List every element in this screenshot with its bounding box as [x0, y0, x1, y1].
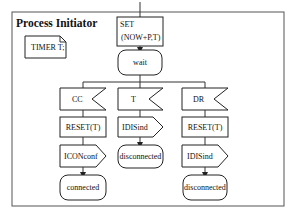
- output-idisind-t: IDISind: [118, 117, 163, 137]
- task-set-timer: SET (NOW+P,T): [117, 17, 163, 46]
- svg-text:disconnected: disconnected: [120, 152, 162, 161]
- svg-text:ICONconf: ICONconf: [64, 152, 98, 161]
- svg-text:CC: CC: [72, 95, 83, 104]
- input-dr: DR: [182, 88, 228, 110]
- state-disconnected-t: disconnected: [118, 145, 163, 168]
- state-disconnected-dr: disconnected: [183, 175, 227, 200]
- process-title: Process Initiator: [16, 17, 97, 29]
- svg-text:IDISind: IDISind: [187, 152, 213, 161]
- timer-declaration: TIMER T;: [25, 36, 66, 58]
- svg-text:SET: SET: [120, 20, 134, 29]
- task-reset-timer-cc: RESET(T): [60, 117, 106, 137]
- state-wait: wait: [118, 50, 162, 75]
- state-connected: connected: [60, 175, 106, 200]
- input-timer-t: T: [118, 88, 163, 110]
- task-reset-timer-dr: RESET(T): [182, 117, 228, 137]
- svg-text:(NOW+P,T): (NOW+P,T): [121, 33, 161, 42]
- svg-text:connected: connected: [67, 183, 99, 192]
- output-idisind-dr: IDISind: [182, 145, 228, 167]
- svg-text:RESET(T): RESET(T): [66, 123, 101, 132]
- svg-text:T: T: [131, 95, 136, 104]
- svg-text:wait: wait: [133, 58, 148, 67]
- svg-text:disconnected: disconnected: [184, 183, 226, 192]
- svg-text:DR: DR: [193, 95, 205, 104]
- svg-text:IDISind: IDISind: [122, 123, 148, 132]
- svg-text:TIMER T;: TIMER T;: [31, 43, 64, 52]
- output-iconconf: ICONconf: [60, 145, 106, 167]
- svg-text:RESET(T): RESET(T): [188, 123, 223, 132]
- input-cc: CC: [60, 88, 106, 110]
- sdl-diagram: Process Initiator TIMER T; SET (NOW+P,T)…: [0, 0, 298, 219]
